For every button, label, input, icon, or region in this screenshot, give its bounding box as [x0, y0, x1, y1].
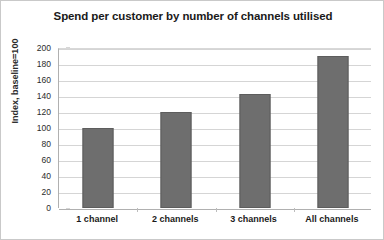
y-axis-tick-label: 120 — [11, 107, 51, 117]
bar-slot — [59, 49, 137, 208]
y-axis-tick-label: 40 — [11, 171, 51, 181]
bar-series — [59, 49, 371, 208]
y-axis-tick-label: 80 — [11, 139, 51, 149]
x-axis-tick-label: All channels — [305, 214, 358, 224]
bar-slot — [294, 49, 372, 208]
bar[interactable] — [83, 128, 114, 208]
bar[interactable] — [239, 94, 270, 208]
y-axis-tick-label: 20 — [11, 187, 51, 197]
bar[interactable] — [161, 112, 192, 208]
chart-container: Spend per customer by number of channels… — [0, 0, 384, 240]
x-axis-tick-label: 2 channels — [152, 214, 199, 224]
y-axis-tick-label: 180 — [11, 59, 51, 69]
x-axis-tick-label: 1 channel — [76, 214, 118, 224]
y-axis-tick-label: 60 — [11, 155, 51, 165]
y-axis-tick-label: 0 — [11, 203, 51, 213]
category-separator — [137, 208, 138, 212]
x-axis-tick-label: 3 channels — [230, 214, 277, 224]
y-axis-tick-label: 160 — [11, 75, 51, 85]
plot-area — [58, 48, 371, 208]
y-axis-tick-label: 140 — [11, 91, 51, 101]
bar-slot — [137, 49, 215, 208]
chart-title: Spend per customer by number of channels… — [1, 10, 384, 22]
category-separator — [216, 208, 217, 212]
bar-slot — [216, 49, 294, 208]
category-separator — [294, 208, 295, 212]
y-axis-tick-label: 200 — [11, 43, 51, 53]
y-axis-tick-label: 100 — [11, 123, 51, 133]
bar[interactable] — [317, 56, 348, 208]
